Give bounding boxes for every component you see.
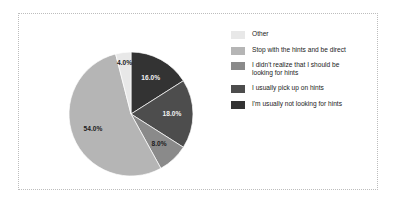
pie-slice-value-label: 54.0% bbox=[84, 125, 103, 132]
pie-slice-value-label: 4.0% bbox=[117, 59, 132, 66]
pie-chart: 16.0%18.0%8.0%54.0%4.0% bbox=[57, 44, 207, 184]
legend-swatch bbox=[231, 31, 245, 39]
legend-label: Other bbox=[252, 30, 269, 38]
legend-label: I didn't realize that I should be lookin… bbox=[252, 61, 339, 78]
pie-slice-value-label: 18.0% bbox=[163, 110, 182, 117]
pie-slice-value-label: 16.0% bbox=[141, 74, 160, 81]
legend-label: I'm usually not looking for hints bbox=[252, 100, 342, 108]
legend-item[interactable]: Stop with the hints and be direct bbox=[231, 46, 381, 55]
pie-svg: 16.0%18.0%8.0%54.0%4.0% bbox=[57, 44, 207, 184]
legend-item[interactable]: I'm usually not looking for hints bbox=[231, 100, 381, 109]
legend-item[interactable]: Other bbox=[231, 30, 381, 39]
chart-frame: 16.0%18.0%8.0%54.0%4.0% OtherStop with t… bbox=[18, 13, 378, 190]
legend-swatch bbox=[231, 101, 245, 109]
legend-item[interactable]: I didn't realize that I should be lookin… bbox=[231, 61, 381, 78]
pie-slice-value-label: 8.0% bbox=[151, 140, 166, 147]
chart-legend: OtherStop with the hints and be directI … bbox=[231, 30, 381, 115]
legend-label: Stop with the hints and be direct bbox=[252, 46, 346, 54]
legend-swatch bbox=[231, 85, 245, 93]
legend-item[interactable]: I usually pick up on hints bbox=[231, 84, 381, 93]
legend-swatch bbox=[231, 62, 245, 70]
legend-label: I usually pick up on hints bbox=[252, 84, 324, 92]
legend-swatch bbox=[231, 47, 245, 55]
